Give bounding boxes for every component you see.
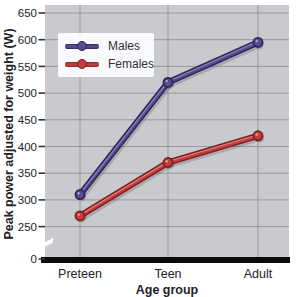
marker-highlight [256,133,258,135]
marker-highlight [256,40,258,42]
legend: MalesFemales [58,33,154,77]
legend-entry-females: Females [65,56,154,72]
legend-label: Males [108,38,140,54]
axis-line [41,257,290,263]
legend-swatch-females-icon [65,59,99,70]
marker-females [75,211,84,220]
marker-highlight [166,160,168,162]
y-axis-title: Peak power adjusted for weight (W) [2,3,22,265]
x-tick-label: Teen [154,267,181,281]
marker-highlight [78,192,80,194]
legend-label: Females [108,56,154,72]
marker-highlight [78,213,80,215]
marker-females [253,131,262,140]
marker-females [163,158,172,167]
x-axis-title: Age group [45,283,289,297]
marker-males [163,78,172,87]
legend-swatch-males-icon [65,41,99,52]
y-tick-label: 0 [31,253,37,265]
chart-figure: 6506005505004504003503002500PreteenTeenA… [0,0,296,297]
x-tick-label: Adult [244,267,273,281]
marker-males [75,190,84,199]
marker-males [253,38,262,47]
legend-entry-males: Males [65,38,154,54]
x-tick-label: Preteen [58,267,102,281]
marker-highlight [166,80,168,82]
